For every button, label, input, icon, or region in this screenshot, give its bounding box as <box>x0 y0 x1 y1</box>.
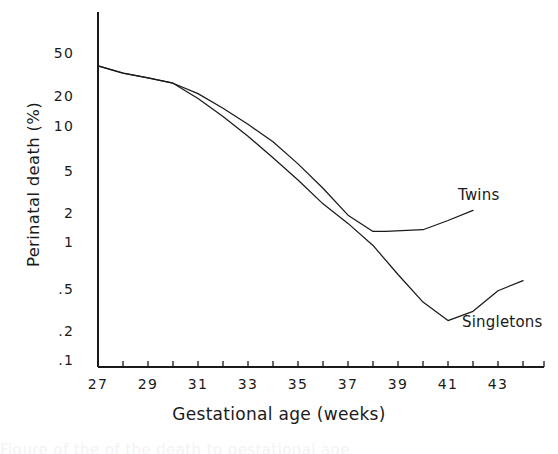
x-tick-label: 43 <box>478 376 518 392</box>
x-tick-label: 37 <box>328 376 368 392</box>
series-label-twins: Twins <box>458 186 499 204</box>
y-tick-label: 5 <box>32 163 74 179</box>
x-axis-ticks <box>98 361 544 367</box>
x-tick-label: 35 <box>278 376 318 392</box>
x-axis-title: Gestational age (weeks) <box>0 404 558 424</box>
y-tick-label: .5 <box>32 281 74 297</box>
y-tick-label: 50 <box>32 45 74 61</box>
y-tick-label: 1 <box>32 234 74 250</box>
x-tick-label: 33 <box>228 376 268 392</box>
y-tick-label: .2 <box>32 323 74 339</box>
x-tick-label: 39 <box>378 376 418 392</box>
y-axis-title: Perinatal death (%) <box>24 70 43 300</box>
y-tick-label: 10 <box>32 118 74 134</box>
x-tick-label: 41 <box>428 376 468 392</box>
x-tick-label: 29 <box>128 376 168 392</box>
y-tick-label: .1 <box>32 352 74 368</box>
y-tick-label: 20 <box>32 88 74 104</box>
x-tick-label: 27 <box>78 376 118 392</box>
y-tick-label: 2 <box>32 205 74 221</box>
figure-container: Perinatal death (%) 50 20 10 5 2 1 .5 .2… <box>0 0 558 454</box>
page-caption-partial: Figure of the of the death to gestationa… <box>0 441 558 454</box>
series-label-singletons: Singletons <box>462 313 543 331</box>
series-line-twins <box>98 66 473 232</box>
x-tick-label: 31 <box>178 376 218 392</box>
